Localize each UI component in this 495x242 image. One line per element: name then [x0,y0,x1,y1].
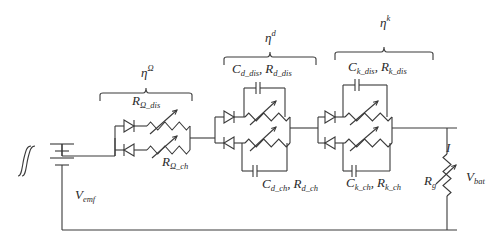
arrow-k-ch [350,127,378,151]
vemf-label: Vemf [75,187,97,204]
resistor-d-ch [245,139,290,147]
resistor-k-dis [345,113,392,121]
eta-k-label: ηk [380,13,390,30]
ck-rk-ch-label: Ck_ch,Rk_ch [346,175,401,192]
diode-k-ch-icon [325,137,335,149]
hysteresis-icon [18,146,35,176]
resistor-k-ch [345,139,392,147]
arrow-d-ch [250,127,276,151]
arrow-omega-dis [150,110,177,134]
r-omega-ch-label: RΩ_ch [161,154,188,171]
diode-d-ch-icon [224,137,234,149]
wires [50,85,457,230]
resistor-rg [443,154,451,196]
resistor-d-dis [245,113,290,121]
diode-omega-ch-icon [124,144,134,156]
arrow-rg [436,165,456,184]
diode-k-dis-icon [325,111,335,123]
cd-rd-dis-label: Cd_dis,Rd_dis [232,61,292,78]
rg-label: Rg [423,173,436,190]
eta-d-label: ηd [265,28,276,45]
current-label: I [445,140,451,155]
circuit-diagram: Vemf ηΩ RΩ_dis RΩ_ch ηd Cd_dis,Rd_dis Cd… [0,0,495,242]
cd-rd-ch-label: Cd_ch,Rd_ch [262,176,318,193]
r-omega-dis-label: RΩ_dis [131,93,161,110]
diode-d-dis-icon [224,111,234,123]
resistor-omega-dis [147,122,190,130]
diode-omega-dis-icon [124,120,134,132]
arrow-d-dis [250,101,276,125]
arrow-k-dis [350,101,378,125]
resistor-omega-ch [147,146,190,154]
eta-omega-label: ηΩ [141,63,154,80]
ck-rk-dis-label: Ck_dis,Rk_dis [348,59,407,76]
vbat-label: Vbat [466,169,485,186]
